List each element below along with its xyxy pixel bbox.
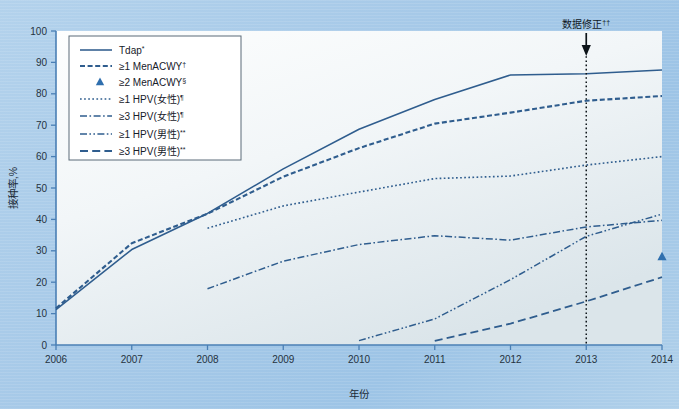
legend-label: Tdap*	[119, 45, 145, 56]
y-tick-label: 80	[36, 88, 48, 99]
legend-label: ≥1 HPV(女性)¶	[119, 93, 184, 105]
legend-label: ≥1 HPV(男性)**	[119, 128, 186, 140]
y-tick-label: 30	[36, 245, 48, 256]
x-tick-label: 2007	[121, 354, 144, 365]
y-axis-title: 接种率,%	[7, 167, 19, 209]
legend-label: ≥3 HPV(女性)¶	[119, 110, 184, 122]
x-axis-title: 年份	[349, 388, 370, 400]
x-tick-label: 2009	[272, 354, 295, 365]
x-tick-label: 2013	[575, 354, 598, 365]
y-tick-label: 20	[36, 277, 48, 288]
y-tick-label: 50	[36, 183, 48, 194]
legend-label: ≥1 MenACWY†	[119, 61, 186, 72]
y-tick-label: 70	[36, 120, 48, 131]
y-tick-label: 0	[41, 340, 47, 351]
x-tick-label: 2010	[348, 354, 371, 365]
x-tick-label: 2012	[499, 354, 522, 365]
y-tick-label: 40	[36, 214, 48, 225]
y-tick-label: 90	[36, 57, 48, 68]
x-tick-label: 2011	[424, 354, 446, 365]
y-tick-label: 60	[36, 151, 48, 162]
x-tick-label: 2006	[45, 354, 68, 365]
chart-figure: 0102030405060708090100200620072008200920…	[0, 0, 679, 409]
annotation-label: 数据修正††	[562, 18, 610, 30]
legend-label: ≥2 MenACWY§	[119, 77, 186, 88]
chart-canvas: 0102030405060708090100200620072008200920…	[0, 0, 679, 409]
x-tick-label: 2014	[651, 354, 674, 365]
x-tick-label: 2008	[196, 354, 219, 365]
y-tick-label: 100	[30, 26, 47, 37]
legend-label: ≥3 HPV(男性)**	[119, 145, 186, 157]
y-tick-label: 10	[36, 308, 48, 319]
